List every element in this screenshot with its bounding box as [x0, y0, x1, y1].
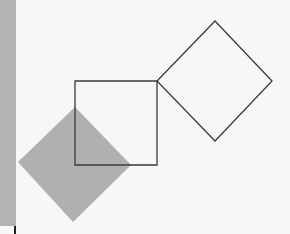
- geometry-figure: [0, 0, 290, 234]
- tilted-square: [157, 21, 272, 141]
